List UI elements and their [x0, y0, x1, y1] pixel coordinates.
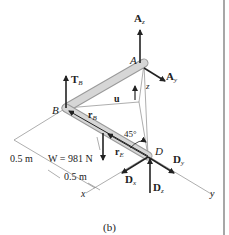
Dx-label: Dx	[125, 173, 137, 187]
u-label: u	[114, 93, 120, 104]
dimension-label-1: 0.5 m	[10, 153, 33, 164]
x-axis-label: x	[80, 188, 86, 199]
TB-label: TB	[71, 73, 83, 87]
Dx-arrow	[122, 157, 148, 173]
Az-label: Az	[134, 12, 145, 26]
Ay-label: Ay	[166, 70, 178, 84]
Dy-label: Dy	[173, 153, 185, 167]
Dy-arrow	[148, 157, 174, 173]
y-axis-label: y	[209, 188, 215, 199]
point-B-label: B	[52, 104, 59, 116]
weight-label: W = 981 N	[48, 153, 93, 164]
rE-label: rE	[115, 146, 124, 159]
Dz-label: Dz	[153, 181, 164, 195]
z-axis-label: z	[145, 81, 150, 91]
point-D-label: D	[154, 145, 163, 157]
angle-label: 45°	[124, 129, 137, 139]
Ay-arrow	[144, 68, 165, 81]
figure-caption: (b)	[103, 221, 116, 234]
free-body-diagram: Az Ay A TB B rB u z 45° rE D Dy Dx Dz W …	[0, 0, 229, 235]
point-A-label: A	[129, 54, 137, 66]
dimension-label-2: 0.5 m	[64, 171, 87, 182]
